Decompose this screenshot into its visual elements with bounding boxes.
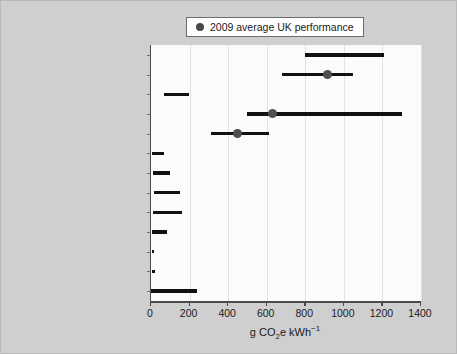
- chart-row: [151, 183, 421, 203]
- chart-row: [151, 65, 421, 85]
- y-axis-tick: [147, 291, 151, 292]
- x-axis-title-superscript: −1: [311, 324, 320, 333]
- range-bar: [164, 93, 189, 96]
- y-axis-tick: [147, 212, 151, 213]
- chart-row: [151, 222, 421, 242]
- y-axis-tick: [147, 232, 151, 233]
- chart-row: [151, 203, 421, 223]
- x-axis-tick: [189, 301, 190, 306]
- y-axis-tick: [147, 134, 151, 135]
- range-bar: [153, 171, 170, 174]
- legend-entry-label: 2009 average UK performance: [210, 22, 354, 33]
- y-axis-tick: [147, 271, 151, 272]
- x-axis-tick: [304, 301, 305, 306]
- y-axis-tick: [147, 55, 151, 56]
- range-bar: [152, 230, 167, 233]
- chart-row: [151, 143, 421, 163]
- x-axis-tick: [227, 301, 228, 306]
- x-axis-tick-label: 600: [257, 308, 275, 319]
- x-axis-tick-label: 1400: [408, 308, 431, 319]
- y-axis-tick: [147, 173, 151, 174]
- filled-circle-icon: [196, 23, 204, 31]
- y-axis-tick: [147, 153, 151, 154]
- chart-figure: 2009 average UK performance 020040060080…: [0, 0, 457, 354]
- chart-row: [151, 163, 421, 183]
- chart-row: [151, 45, 421, 65]
- range-bar: [152, 152, 164, 155]
- x-axis-tick-label: 1200: [370, 308, 393, 319]
- x-axis-tick: [343, 301, 344, 306]
- chart-row: [151, 281, 421, 301]
- chart-row: [151, 262, 421, 282]
- chart-legend: 2009 average UK performance: [186, 17, 364, 37]
- range-bar: [151, 289, 197, 292]
- y-axis-tick: [147, 193, 151, 194]
- x-axis-tick: [266, 301, 267, 306]
- y-axis-tick: [147, 252, 151, 253]
- x-axis-title-middle: e kWh: [280, 326, 311, 338]
- x-axis-title-prefix: g CO: [250, 326, 276, 338]
- x-axis-tick-label: 200: [180, 308, 198, 319]
- range-bar: [152, 270, 155, 273]
- plot-area: [150, 45, 422, 301]
- x-axis-tick-label: 1000: [331, 308, 354, 319]
- average-performance-marker: [233, 129, 242, 138]
- x-axis-tick: [420, 301, 421, 306]
- range-bar: [153, 211, 182, 214]
- chart-row: [151, 84, 421, 104]
- y-axis-tick: [147, 75, 151, 76]
- average-performance-marker: [323, 70, 332, 79]
- range-bar: [154, 191, 180, 194]
- x-axis-title: g CO2e kWh−1: [150, 325, 420, 341]
- range-bar: [152, 250, 155, 253]
- y-axis-tick: [147, 114, 151, 115]
- x-axis: 0200400600800100012001400: [150, 301, 420, 303]
- range-bar: [305, 53, 384, 56]
- gridline: [421, 45, 422, 301]
- x-axis-tick-label: 0: [147, 308, 153, 319]
- chart-row: [151, 242, 421, 262]
- x-axis-tick-label: 400: [218, 308, 236, 319]
- chart-row: [151, 104, 421, 124]
- x-axis-tick: [381, 301, 382, 306]
- y-axis-tick: [147, 94, 151, 95]
- average-performance-marker: [268, 109, 277, 118]
- x-axis-tick-label: 800: [296, 308, 314, 319]
- x-axis-tick: [150, 301, 151, 306]
- chart-row: [151, 124, 421, 144]
- range-bar: [282, 73, 353, 76]
